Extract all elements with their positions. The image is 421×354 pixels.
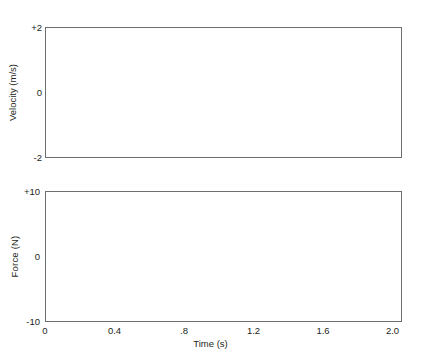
x-axis-tick-labels: 0 0.4 .8 1.2 1.6 2.0 [0, 326, 421, 338]
velocity-ytick-mid: 0 [37, 88, 42, 98]
xtick-1: 0.4 [108, 326, 121, 336]
velocity-y-tick-labels: +2 0 -2 [18, 27, 42, 158]
two-panel-time-series-figure: +2 0 -2 Velocity (m/s) [0, 0, 421, 354]
velocity-plot-panel [45, 27, 402, 158]
velocity-ytick-top: +2 [31, 23, 42, 33]
force-plot-panel [45, 191, 402, 322]
xtick-0: 0 [42, 326, 47, 336]
force-ytick-top: +10 [14, 187, 40, 197]
force-plot-frame [45, 191, 402, 322]
x-axis-title: Time (s) [0, 338, 421, 349]
xtick-3: 1.2 [247, 326, 260, 336]
force-y-tick-labels: +10 0 -10 [16, 191, 40, 322]
velocity-plot-frame [45, 27, 402, 158]
xtick-4: 1.6 [316, 326, 329, 336]
xtick-2: .8 [180, 326, 188, 336]
velocity-ytick-bottom: -2 [34, 153, 42, 163]
xtick-5: 2.0 [386, 326, 399, 336]
velocity-axis-title: Velocity (m/s) [7, 53, 18, 133]
force-axis-title: Force (N) [9, 217, 20, 297]
